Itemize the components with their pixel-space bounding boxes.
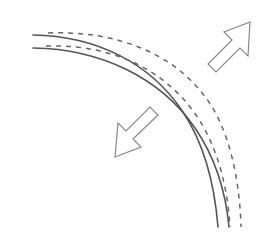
- diagram-canvas: [0, 0, 267, 240]
- figure-root: [0, 0, 267, 240]
